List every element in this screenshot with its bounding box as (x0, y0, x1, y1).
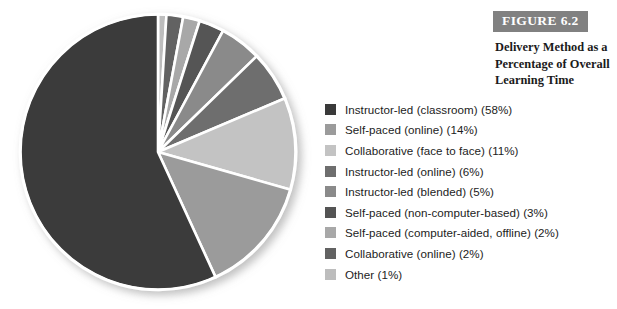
legend-item-label: Instructor-led (online) (6%) (345, 165, 484, 178)
pie-chart-svg (8, 4, 314, 306)
legend-item: Instructor-led (classroom) (58%) (324, 99, 616, 120)
legend-item: Self-paced (computer-aided, offline) (2%… (324, 223, 616, 244)
chart-legend: Instructor-led (classroom) (58%)Self-pac… (324, 99, 616, 284)
legend-color-swatch (325, 207, 336, 218)
legend-color-swatch (325, 186, 336, 197)
legend-color-swatch (325, 248, 336, 259)
legend-item-label: Self-paced (non-computer-based) (3%) (345, 206, 548, 219)
legend-color-swatch (325, 124, 336, 135)
legend-color-swatch (325, 227, 336, 238)
legend-color-swatch (325, 269, 336, 280)
legend-item-label: Self-paced (computer-aided, offline) (2%… (345, 226, 559, 239)
legend-item: Instructor-led (blended) (5%) (324, 181, 616, 202)
legend-color-swatch (325, 145, 336, 156)
legend-item-label: Collaborative (face to face) (11%) (345, 144, 519, 157)
legend-item-label: Self-paced (online) (14%) (345, 123, 478, 136)
legend-item: Collaborative (face to face) (11%) (324, 140, 616, 161)
legend-item: Self-paced (online) (14%) (324, 120, 616, 141)
figure-page: FIGURE 6.2 Delivery Method as a Percenta… (0, 0, 617, 309)
legend-item-label: Instructor-led (blended) (5%) (345, 185, 494, 198)
figure-side-panel: FIGURE 6.2 Delivery Method as a Percenta… (318, 0, 617, 309)
pie-chart (8, 4, 314, 306)
legend-item: Self-paced (non-computer-based) (3%) (324, 202, 616, 223)
figure-number-badge: FIGURE 6.2 (493, 11, 588, 32)
legend-item: Collaborative (online) (2%) (324, 243, 616, 264)
legend-item-label: Instructor-led (classroom) (58%) (345, 103, 512, 116)
legend-item: Instructor-led (online) (6%) (324, 161, 616, 182)
legend-item-label: Other (1%) (345, 268, 402, 281)
legend-item-label: Collaborative (online) (2%) (345, 247, 484, 260)
legend-color-swatch (325, 104, 336, 115)
figure-caption: Delivery Method as a Percentage of Overa… (495, 39, 617, 89)
legend-color-swatch (325, 166, 336, 177)
pie-slice-group (20, 14, 296, 290)
legend-item: Other (1%) (324, 264, 616, 285)
